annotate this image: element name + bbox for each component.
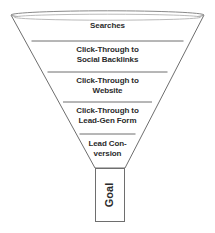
funnel-rim-ellipse-inner [15, 14, 201, 20]
funnel-goal-label: Goal [103, 170, 117, 220]
funnel-body-shape [11, 15, 204, 168]
funnel-diagram: Searches Click-Through to Social Backlin… [0, 0, 215, 233]
